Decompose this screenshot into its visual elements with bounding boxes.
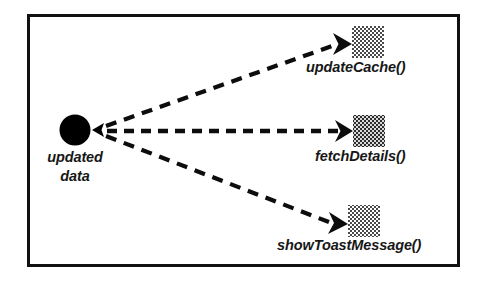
source-node-label-line-2: data — [20, 167, 130, 186]
target-label-updateCache: updateCache() — [306, 59, 405, 75]
source-node-circle — [60, 115, 91, 146]
diagram-canvas: updated data updateCache() fetchDetails(… — [0, 0, 485, 287]
arrowhead-showToastMessage-icon — [328, 212, 348, 234]
source-node-label: updated data — [20, 148, 130, 186]
target-label-showToastMessage: showToastMessage() — [277, 237, 421, 253]
target-square-fetchDetails — [353, 115, 385, 147]
target-square-showToastMessage — [348, 205, 380, 237]
connector-line-showToastMessage — [106, 136, 334, 224]
target-label-fetchDetails: fetchDetails() — [315, 148, 405, 164]
source-node-label-line-1: updated — [47, 149, 103, 165]
arrowhead-updateCache-icon — [333, 33, 352, 55]
connector-line-updateCache — [106, 44, 338, 126]
target-square-updateCache — [352, 26, 384, 58]
source-node-arrowhead-icon — [92, 123, 104, 137]
